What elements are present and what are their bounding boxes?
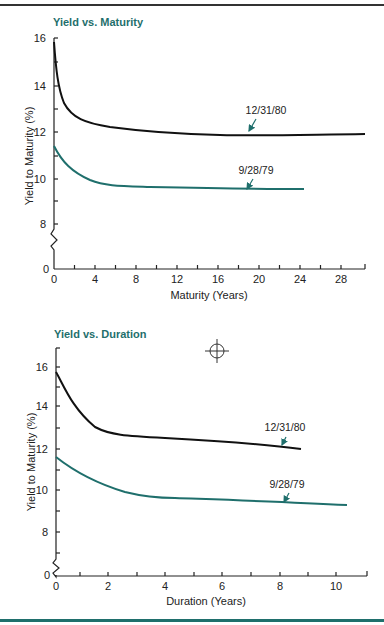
y-tick-label: 0: [43, 263, 49, 275]
x-tick-label: 24: [294, 273, 306, 285]
y-axis-label: Yield to Maturity (%): [23, 107, 35, 206]
x-tick-label: 4: [162, 580, 168, 592]
y-axis-label: Yield to Maturity (%): [25, 413, 37, 512]
x-tick-label: 8: [133, 273, 139, 285]
x-tick-label: 4: [92, 273, 98, 285]
x-tick-label: 28: [335, 273, 347, 285]
x-tick-label: 8: [277, 580, 283, 592]
chart-title: Yield vs. Maturity: [53, 16, 144, 28]
x-tick-label: 20: [253, 273, 265, 285]
series-line-1980: [56, 372, 301, 449]
x-tick-label: 0: [51, 273, 57, 285]
y-tick-label: 8: [42, 526, 48, 538]
y-tick-label: 10: [36, 484, 48, 496]
y-tick-label: 12: [36, 443, 48, 455]
annotation-arrow: [249, 119, 256, 131]
y-tick-label: 8: [40, 218, 46, 230]
series-line-1980: [54, 42, 365, 135]
y-tick-label: 14: [34, 80, 46, 92]
chart-title: Yield vs. Duration: [54, 328, 147, 340]
y-tick-label: 10: [34, 173, 46, 185]
x-tick-label: 12: [171, 273, 183, 285]
y-tick-label: 14: [36, 400, 48, 412]
x-axis-label: Duration (Years): [166, 595, 246, 607]
figure: Yield vs. Maturity: [0, 0, 384, 625]
annotation-label-1980: 12/31/80: [265, 421, 306, 433]
y-tick-label: 16: [34, 32, 46, 44]
x-axis: [54, 264, 365, 269]
x-axis: [56, 571, 367, 576]
annotation-arrow: [282, 437, 286, 445]
chart-yield-vs-maturity: Yield vs. Maturity: [23, 16, 365, 301]
y-tick-label: 0: [44, 569, 50, 581]
annotation-label-1979: 9/28/79: [269, 478, 304, 490]
y-axis: [53, 348, 60, 577]
x-axis-label: Maturity (Years): [170, 289, 247, 301]
annotation-arrow: [247, 179, 253, 189]
x-tick-label: 2: [105, 580, 111, 592]
annotation-label-1979: 9/28/79: [238, 164, 273, 176]
chart-yield-vs-duration: Yield vs. Duration: [25, 328, 367, 607]
y-tick-label: 12: [34, 126, 46, 138]
x-tick-label: 16: [212, 273, 224, 285]
y-tick-label: 16: [36, 361, 48, 373]
registration-mark-icon: [205, 339, 229, 363]
x-tick-label: 6: [219, 580, 225, 592]
x-tick-label: 10: [330, 580, 342, 592]
annotation-arrow: [284, 493, 289, 502]
annotation-label-1980: 12/31/80: [246, 104, 287, 116]
x-tick-label: 0: [53, 580, 59, 592]
bottom-rule: [0, 619, 384, 622]
